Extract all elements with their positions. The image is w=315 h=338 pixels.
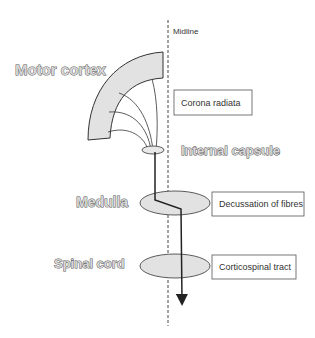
medulla-label: Medulla xyxy=(76,194,128,210)
internal-capsule-label: Internal capsule xyxy=(181,143,280,158)
corticospinal-diagram: Midline Motor cortex Internal capsule Me… xyxy=(0,0,315,338)
spinal-cord-shape xyxy=(140,254,210,278)
corona-radiata-text: Corona radiata xyxy=(181,98,241,108)
motor-cortex-label: Motor cortex xyxy=(15,61,107,78)
medulla-shape xyxy=(140,191,210,215)
decussation-text: Decussation of fibres xyxy=(219,199,304,209)
corticospinal-text: Corticospinal tract xyxy=(219,262,292,272)
spinal-cord-label: Spinal cord xyxy=(54,256,125,271)
midline-label: Midline xyxy=(173,27,199,36)
internal-capsule-shape xyxy=(142,146,164,154)
